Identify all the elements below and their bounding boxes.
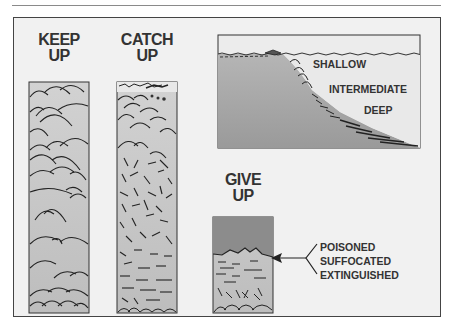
depth-label-deep: DEEP [364, 103, 393, 117]
cause-suffocated: SUFFOCATED [320, 254, 399, 268]
give-up-column [213, 217, 317, 313]
depth-label-shallow: SHALLOW [313, 57, 366, 71]
cause-poisoned: POISONED [320, 240, 399, 254]
depth-label-intermediate: INTERMEDIATE [329, 82, 407, 96]
cause-list: POISONED SUFFOCATED EXTINGUISHED [320, 240, 399, 282]
keep-up-column [29, 82, 89, 313]
catch-up-label-line2: UP [112, 48, 182, 64]
give-up-label-line2: UP [213, 188, 273, 204]
keep-up-label: KEEP UP [29, 32, 89, 64]
catch-up-label-line1: CATCH [112, 32, 182, 48]
give-up-label: GIVE UP [213, 172, 273, 204]
keep-up-label-line2: UP [29, 48, 89, 64]
catch-up-label: CATCH UP [112, 32, 182, 64]
catch-up-column [117, 82, 177, 313]
cause-extinguished: EXTINGUISHED [320, 268, 399, 282]
give-up-label-line1: GIVE [213, 172, 273, 188]
keep-up-label-line1: KEEP [29, 32, 89, 48]
